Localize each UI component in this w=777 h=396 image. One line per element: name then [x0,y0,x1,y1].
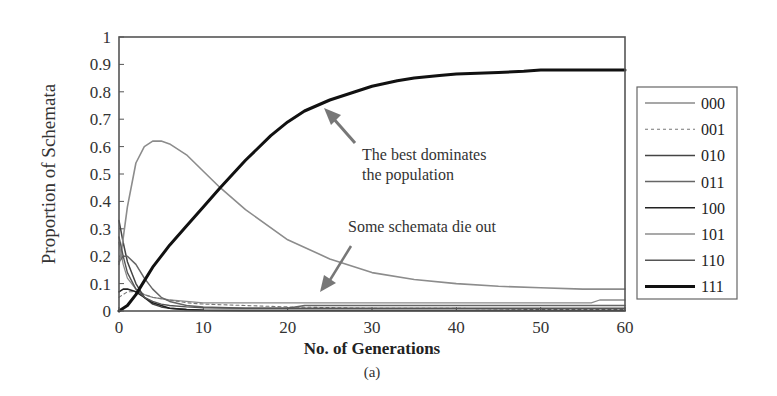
annotation-arrow-shaft [330,246,351,280]
y-axis-title: Proportion of Schemata [38,83,59,264]
annotation-text: Some schemata die out [348,218,497,235]
series-line-111 [119,70,625,311]
legend-label-100: 100 [701,200,725,217]
legend-label-110: 110 [701,252,724,269]
annotation-arrow-head-icon [320,275,336,292]
y-tick-label: 0.3 [90,220,111,239]
legend-label-111: 111 [701,278,724,295]
legend-label-001: 001 [701,121,725,138]
legend-label-000: 000 [701,95,725,112]
legend: 000001010011100101110111 [637,87,737,299]
legend-label-011: 011 [701,174,724,191]
y-tick-label: 1 [103,28,112,47]
x-tick-label: 20 [279,318,296,337]
x-tick-label: 40 [448,318,465,337]
y-tick-label: 0.1 [90,275,111,294]
x-tick-label: 10 [195,318,212,337]
x-tick-label: 0 [115,318,124,337]
annotation-arrow-shaft [333,118,355,143]
y-tick-label: 0.8 [90,83,111,102]
y-tick-label: 0.5 [90,165,111,184]
x-axis-title: No. of Generations [304,339,441,358]
legend-label-101: 101 [701,226,725,243]
annotation-die-out: Some schemata die out [320,218,497,292]
x-tick-label: 30 [364,318,381,337]
x-tick-label: 60 [617,318,634,337]
y-tick-label: 0.4 [90,192,112,211]
y-tick-label: 0.2 [90,247,111,266]
y-tick-label: 0.7 [90,110,112,129]
legend-label-010: 010 [701,147,725,164]
y-tick-label: 0.9 [90,55,111,74]
annotation-best-dominates: The best dominates the population [324,108,486,184]
y-tick-label: 0 [103,302,112,321]
annotation-text-line2: the population [362,166,454,184]
annotation-text-line1: The best dominates [362,146,486,163]
figure-caption: (a) [364,364,381,381]
schemata-proportion-chart: 00.10.20.30.40.50.60.70.80.91 0102030405… [0,0,777,396]
y-tick-label: 0.6 [90,138,111,157]
series-lines [119,70,625,311]
series-line-011 [119,256,625,308]
x-tick-label: 50 [532,318,549,337]
